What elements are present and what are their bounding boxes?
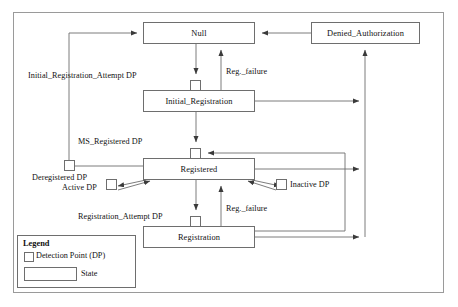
detection-point-inactive[interactable] bbox=[276, 179, 287, 190]
state-null[interactable]: Null bbox=[143, 22, 255, 44]
state-registered-label: Registered bbox=[181, 165, 218, 174]
legend-state-label: State bbox=[81, 269, 97, 278]
label-deregistered-dp: Deregistered DP bbox=[32, 173, 87, 182]
label-inactive-dp: Inactive DP bbox=[290, 180, 329, 189]
detection-point-ms-registered[interactable] bbox=[190, 148, 201, 159]
label-active-dp: Active DP bbox=[62, 183, 97, 192]
label-reg-failure-bottom: Reg._failure bbox=[226, 204, 267, 213]
label-ms-registered-dp: MS_Registered DP bbox=[78, 137, 142, 146]
label-registration-attempt-dp: Registration_Attempt DP bbox=[78, 212, 163, 221]
legend: Legend Detection Point (DP) State bbox=[17, 235, 136, 288]
label-initial-registration-attempt-dp: Initial_Registration_Attempt DP bbox=[28, 71, 137, 80]
state-registration[interactable]: Registration bbox=[143, 226, 255, 248]
legend-detection-point-label: Detection Point (DP) bbox=[36, 251, 105, 260]
legend-state-swatch bbox=[24, 267, 77, 281]
detection-point-deregistered[interactable] bbox=[64, 160, 75, 171]
state-registered[interactable]: Registered bbox=[143, 158, 255, 180]
state-denied-authorization[interactable]: Denied_Authorization bbox=[311, 22, 420, 44]
state-initial-registration[interactable]: Initial_Registration bbox=[143, 90, 255, 112]
state-initial-registration-label: Initial_Registration bbox=[165, 97, 232, 106]
legend-title: Legend bbox=[23, 239, 50, 248]
state-null-label: Null bbox=[191, 29, 206, 38]
legend-detection-point-swatch bbox=[24, 252, 34, 262]
detection-point-active[interactable] bbox=[106, 179, 117, 190]
detection-point-registration-attempt[interactable] bbox=[190, 216, 201, 227]
label-reg-failure-top: Reg._failure bbox=[226, 67, 267, 76]
state-denied-authorization-label: Denied_Authorization bbox=[327, 29, 404, 38]
detection-point-initial-registration-attempt[interactable] bbox=[190, 80, 201, 91]
state-registration-label: Registration bbox=[178, 233, 220, 242]
diagram-canvas: Null Denied_Authorization Initial_Regist… bbox=[0, 0, 458, 307]
